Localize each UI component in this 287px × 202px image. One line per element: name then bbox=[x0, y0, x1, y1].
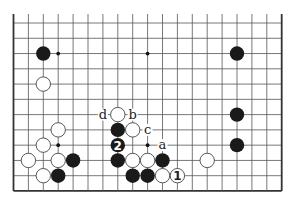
star-point-icon bbox=[146, 143, 150, 147]
white-stone-icon bbox=[155, 169, 169, 183]
white-stone bbox=[21, 153, 35, 167]
point-label-b: b bbox=[129, 107, 137, 122]
black-stone bbox=[36, 46, 50, 60]
white-stone-icon bbox=[51, 153, 65, 167]
black-stone-icon bbox=[230, 138, 244, 152]
black-stone bbox=[51, 169, 65, 183]
move-number-label: 2 bbox=[114, 139, 122, 153]
black-stone-icon bbox=[111, 123, 125, 137]
white-stone bbox=[111, 107, 125, 121]
white-stone-icon bbox=[126, 123, 140, 137]
white-stone bbox=[200, 153, 214, 167]
black-stone-icon bbox=[230, 107, 244, 121]
black-stone: 2 bbox=[111, 138, 125, 153]
white-stone-icon bbox=[36, 169, 50, 183]
white-stone: 1 bbox=[170, 169, 184, 184]
star-point-icon bbox=[56, 52, 60, 56]
star-point-icon bbox=[146, 52, 150, 56]
black-stone-icon bbox=[155, 153, 169, 167]
white-stone bbox=[51, 153, 65, 167]
black-stone bbox=[140, 169, 154, 183]
white-stone bbox=[36, 138, 50, 152]
black-stone bbox=[230, 138, 244, 152]
move-number-label: 1 bbox=[173, 169, 181, 183]
black-stone bbox=[66, 153, 80, 167]
black-stone-icon bbox=[51, 169, 65, 183]
black-stone bbox=[155, 153, 169, 167]
black-stone-icon bbox=[111, 153, 125, 167]
black-stone bbox=[230, 46, 244, 60]
black-stone-icon bbox=[36, 46, 50, 60]
black-stone bbox=[126, 169, 140, 183]
white-stone bbox=[140, 153, 154, 167]
point-label-d: d bbox=[99, 107, 107, 122]
black-stone-icon bbox=[230, 46, 244, 60]
white-stone-icon bbox=[21, 153, 35, 167]
black-stone-icon bbox=[140, 169, 154, 183]
white-stone-icon bbox=[36, 138, 50, 152]
white-stone-icon bbox=[126, 153, 140, 167]
white-stone bbox=[36, 169, 50, 183]
black-stone-icon bbox=[126, 169, 140, 183]
point-label-a: a bbox=[159, 137, 167, 152]
white-stone-icon bbox=[140, 153, 154, 167]
white-stone-icon bbox=[36, 77, 50, 91]
black-stone bbox=[111, 123, 125, 137]
white-stone bbox=[36, 77, 50, 91]
black-stone bbox=[230, 107, 244, 121]
black-stone bbox=[111, 153, 125, 167]
go-board: dbca 21 bbox=[0, 0, 287, 202]
white-stone-icon bbox=[51, 123, 65, 137]
point-label-c: c bbox=[144, 122, 151, 137]
white-stone-icon bbox=[200, 153, 214, 167]
white-stone-icon bbox=[111, 107, 125, 121]
white-stone bbox=[126, 123, 140, 137]
star-point-icon bbox=[56, 143, 60, 147]
white-stone bbox=[155, 169, 169, 183]
white-stone bbox=[51, 123, 65, 137]
black-stone-icon bbox=[66, 153, 80, 167]
white-stone bbox=[126, 153, 140, 167]
